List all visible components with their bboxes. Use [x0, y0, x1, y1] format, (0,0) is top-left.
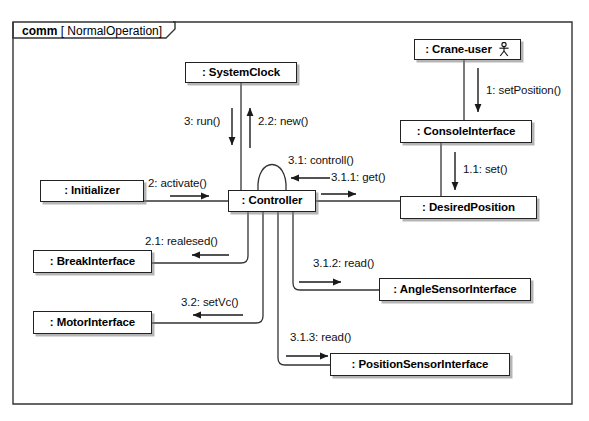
lifeline-break-interface[interactable]: : BreakInterface	[33, 250, 152, 273]
lifeline-desired-position[interactable]: : DesiredPosition	[400, 196, 537, 219]
actor-stick-figure-icon	[498, 42, 510, 57]
lifeline-label-crane-user: : Crane-user	[425, 44, 492, 56]
frame-label: comm [ NormalOperation]	[18, 25, 162, 37]
lifeline-crane-user[interactable]: : Crane-user	[414, 39, 521, 60]
message-label-run: 3: run()	[184, 116, 220, 128]
frame-operand-label: [ NormalOperation]	[61, 24, 162, 38]
lifeline-label-motor-interface: : MotorInterface	[50, 317, 135, 329]
message-label-read-angle: 3.1.2: read()	[313, 258, 374, 270]
message-label-read-position: 3.1.3: read()	[290, 332, 351, 344]
lifeline-controller[interactable]: : Controller	[228, 190, 316, 212]
lifeline-label-console-interface: : ConsoleInterface	[417, 126, 516, 138]
diagram-canvas: comm [ NormalOperation] : SystemClock : …	[0, 0, 589, 421]
message-label-setVc: 3.2: setVc()	[181, 297, 239, 309]
lifeline-label-system-clock: : SystemClock	[202, 67, 280, 79]
link-controller-self	[258, 165, 286, 191]
frame-kind-label: comm	[22, 24, 57, 38]
lifeline-label-position-sensor-interface: : PositionSensorInterface	[352, 359, 489, 371]
lifeline-motor-interface[interactable]: : MotorInterface	[33, 311, 152, 334]
message-label-setPosition: 1: setPosition()	[486, 85, 561, 97]
message-label-set: 1.1: set()	[463, 164, 507, 176]
lifeline-console-interface[interactable]: : ConsoleInterface	[400, 120, 532, 143]
lifeline-initializer[interactable]: : Initializer	[40, 180, 144, 202]
lifeline-label-desired-position: : DesiredPosition	[422, 202, 515, 214]
lifeline-system-clock[interactable]: : SystemClock	[185, 62, 297, 83]
message-label-controll: 3.1: controll()	[288, 155, 354, 167]
message-label-new: 2.2: new()	[258, 116, 308, 128]
lifeline-label-initializer: : Initializer	[64, 185, 120, 197]
link-controller-anglesensorinterface	[293, 212, 379, 290]
message-label-realesed: 2.1: realesed()	[145, 236, 218, 248]
lifeline-angle-sensor-interface[interactable]: : AngleSensorInterface	[379, 278, 531, 301]
lifeline-label-controller: : Controller	[242, 195, 303, 207]
lifeline-position-sensor-interface[interactable]: : PositionSensorInterface	[330, 353, 510, 376]
message-label-get: 3.1.1: get()	[331, 172, 385, 184]
lifeline-label-angle-sensor-interface: : AngleSensorInterface	[393, 284, 516, 296]
lifeline-label-break-interface: : BreakInterface	[50, 256, 135, 268]
message-label-activate: 2: activate()	[148, 178, 207, 190]
